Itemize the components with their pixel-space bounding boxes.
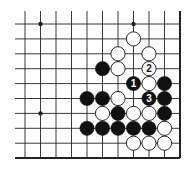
white-stone-icon <box>111 62 125 76</box>
white-stone-icon <box>142 77 156 91</box>
black-stone-icon <box>157 91 171 105</box>
white-stone-icon <box>95 106 109 120</box>
white-stone <box>111 91 125 105</box>
black-stone <box>126 121 140 135</box>
black-stone <box>157 106 171 120</box>
black-stone-icon <box>95 62 109 76</box>
stones: 213 <box>80 32 172 150</box>
white-stone-icon <box>142 136 156 150</box>
white-stone <box>95 106 109 120</box>
white-stone <box>157 121 171 135</box>
white-stone-icon <box>142 47 156 61</box>
black-stone-icon <box>157 106 171 120</box>
move-number-label: 2 <box>146 63 152 74</box>
star-point-icon <box>38 22 42 26</box>
star-point-icon <box>131 22 135 26</box>
white-stone-move-2: 2 <box>142 62 156 76</box>
black-stone <box>111 106 125 120</box>
black-stone <box>80 91 94 105</box>
white-stone-icon <box>142 106 156 120</box>
black-stone <box>111 121 125 135</box>
white-stone-icon <box>126 106 140 120</box>
black-stone-icon <box>126 121 140 135</box>
black-stone-icon <box>80 91 94 105</box>
black-stone-icon <box>95 121 109 135</box>
black-stone-icon <box>142 121 156 135</box>
black-stone-move-3: 3 <box>142 91 156 105</box>
move-number-label: 1 <box>131 78 137 89</box>
black-stone <box>80 121 94 135</box>
move-number-label: 3 <box>146 93 152 104</box>
white-stone-icon <box>111 47 125 61</box>
black-stone-icon <box>157 77 171 91</box>
black-stone <box>95 62 109 76</box>
white-stone <box>142 47 156 61</box>
white-stone <box>126 106 140 120</box>
white-stone-icon <box>157 121 171 135</box>
black-stone-move-1: 1 <box>126 77 140 91</box>
black-stone <box>95 91 109 105</box>
black-stone-icon <box>111 106 125 120</box>
white-stone <box>126 136 140 150</box>
black-stone <box>157 91 171 105</box>
white-stone <box>142 136 156 150</box>
white-stone <box>126 32 140 46</box>
black-stone-icon <box>80 121 94 135</box>
black-stone-icon <box>95 91 109 105</box>
white-stone-icon <box>126 136 140 150</box>
white-stone <box>157 136 171 150</box>
white-stone <box>111 47 125 61</box>
black-stone <box>142 121 156 135</box>
go-board: 213 <box>0 0 195 172</box>
white-stone-icon <box>157 136 171 150</box>
black-stone <box>157 77 171 91</box>
black-stone-icon <box>111 121 125 135</box>
white-stone <box>142 106 156 120</box>
white-stone-icon <box>126 32 140 46</box>
white-stone <box>111 62 125 76</box>
star-point-icon <box>38 111 42 115</box>
white-stone <box>142 77 156 91</box>
black-stone <box>95 121 109 135</box>
white-stone-icon <box>111 91 125 105</box>
